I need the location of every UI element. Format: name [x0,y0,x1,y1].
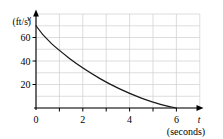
y-tick-label-40: 40 [21,56,31,67]
y-tick-label-60: 60 [21,32,31,43]
x-tick-label-2: 2 [80,114,85,125]
y-tick-label-20: 20 [21,79,31,90]
y-axis-arrowhead [33,10,39,17]
x-axis-units-label: (seconds) [167,126,205,138]
x-tick-label-0: 0 [34,114,39,125]
x-tick-label-6: 6 [174,114,179,125]
chart-canvas: v (ft/s) 60 40 20 0 2 4 6 t (seconds) [0,0,223,139]
x-tick-label-4: 4 [127,114,132,125]
axes [34,15,198,110]
y-axis-units-label: (ft/s) [13,17,31,28]
velocity-time-chart: v (ft/s) 60 40 20 0 2 4 6 t (seconds) [0,0,223,139]
grid-lines [36,14,200,108]
x-axis-variable-label: t [198,115,201,125]
